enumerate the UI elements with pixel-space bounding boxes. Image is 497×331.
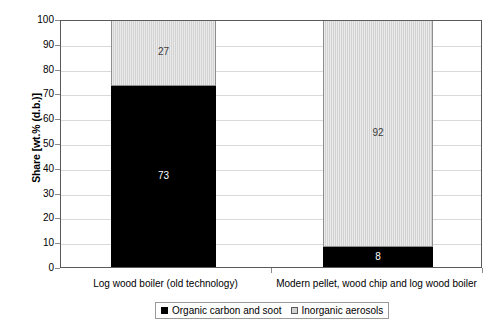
stacked-bar-chart: Share [wt.% (d.b.)] 10090807060504030201…	[0, 0, 497, 331]
legend-label: Organic carbon and soot	[172, 306, 282, 316]
x-axis-category-label-0: Log wood boiler (old technology)	[60, 278, 271, 290]
legend: Organic carbon and soot Inorganic aeroso…	[155, 302, 389, 319]
y-axis-tick-label: 70	[14, 89, 54, 99]
bar-group-log-wood-boiler[interactable]: 27 73	[111, 21, 216, 267]
bar-segment-organic-carbon-and-soot[interactable]: 73	[111, 86, 216, 267]
y-axis-tick-label: 20	[14, 213, 54, 223]
y-axis-tick-label: 10	[14, 238, 54, 248]
bar-value-label: 8	[375, 252, 381, 262]
y-axis-tick-label: 50	[14, 139, 54, 149]
x-axis-category-label-1: Modern pellet, wood chip and log wood bo…	[271, 278, 482, 290]
bar-segment-inorganic-aerosols[interactable]: 27	[111, 20, 216, 86]
y-axis-tick-label: 90	[14, 40, 54, 50]
bar-segment-organic-carbon-and-soot[interactable]: 8	[323, 247, 433, 267]
y-axis-tick-label: 30	[14, 189, 54, 199]
legend-swatch-icon	[291, 307, 298, 314]
bar-value-label: 73	[158, 171, 169, 181]
bar-value-label: 92	[372, 128, 383, 138]
y-axis-tick-label: 60	[14, 114, 54, 124]
x-axis-tick-mark	[482, 268, 483, 273]
y-axis-tick-label: 80	[14, 65, 54, 75]
y-axis-tick-label: 40	[14, 164, 54, 174]
bar-value-label: 27	[158, 47, 169, 57]
y-axis-tick-label: 100	[14, 15, 54, 25]
legend-swatch-icon	[161, 307, 168, 314]
legend-entry-organic-carbon-and-soot[interactable]: Organic carbon and soot	[161, 306, 282, 316]
plot-area: 27 73 92 8	[60, 20, 482, 268]
bar-group-modern-pellet-boiler[interactable]: 92 8	[323, 21, 433, 267]
legend-label: Inorganic aerosols	[302, 306, 384, 316]
y-axis-tick-mark	[55, 268, 60, 269]
x-axis-tick-mark	[271, 268, 272, 273]
legend-entry-inorganic-aerosols[interactable]: Inorganic aerosols	[291, 306, 384, 316]
bar-segment-inorganic-aerosols[interactable]: 92	[323, 20, 433, 247]
y-axis-tick-label: 0	[14, 263, 54, 273]
